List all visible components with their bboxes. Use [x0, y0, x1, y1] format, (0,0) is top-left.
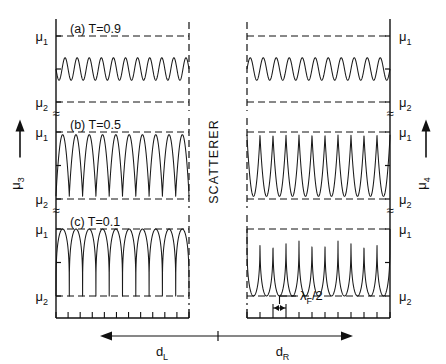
figure-root: (a) T=0.9(b) T=0.5(c) T=0.1μ1μ2μ1μ2μ1μ2μ…	[0, 0, 446, 364]
panel-b-right-curve	[247, 135, 390, 197]
panel-a-left-mu2-label: μ2	[35, 95, 48, 113]
panel-c-right-curve	[247, 229, 390, 296]
panel-b-left-mu2-label: μ2	[35, 192, 48, 210]
panel-a-right-mu1-label: μ1	[399, 29, 412, 47]
panel-c-right-mu1-label: μ1	[399, 222, 412, 240]
panel-c-right-mu2-label: μ2	[399, 289, 412, 307]
scatterer-label: SCATTERER	[207, 119, 221, 204]
axis-break-right-0: ≈	[386, 106, 393, 121]
panel-c-left-curve	[56, 229, 189, 296]
dL-label: dL	[156, 344, 168, 362]
right-axis-arrow-head	[422, 120, 431, 132]
panel-b-label: (b) T=0.5	[70, 118, 121, 132]
panel-a-right-curve	[247, 58, 390, 80]
dL-arrow-head	[100, 332, 112, 341]
left-axis-title: μ3	[8, 177, 26, 190]
lambda-arrow-left	[274, 305, 279, 311]
panel-a-left-curve	[56, 58, 189, 80]
panel-c-left-mu2-label: μ2	[35, 289, 48, 307]
panel-b-left-mu1-label: μ1	[35, 125, 48, 143]
dR-arrow-head	[341, 332, 353, 341]
panel-c-label: (c) T=0.1	[70, 215, 120, 229]
axis-break-right-1: ≈	[386, 203, 393, 218]
panel-a-right-mu2-label: μ2	[399, 95, 412, 113]
dR-label: dR	[276, 344, 290, 362]
right-axis-title: μ4	[414, 177, 432, 190]
left-axis-arrow-head	[16, 120, 25, 132]
axis-break-left-0: ≈	[52, 106, 59, 121]
lambda-arrow-right	[280, 305, 285, 311]
panel-b-right-mu2-label: μ2	[399, 192, 412, 210]
panel-a-left-mu1-label: μ1	[35, 29, 48, 47]
lambda-label: λF/2	[300, 288, 323, 306]
lambda-leader	[280, 296, 297, 304]
figure-canvas: (a) T=0.9(b) T=0.5(c) T=0.1μ1μ2μ1μ2μ1μ2μ…	[0, 0, 446, 364]
panel-b-left-curve	[56, 135, 189, 197]
panel-a-label: (a) T=0.9	[70, 22, 121, 36]
panel-c-left-mu1-label: μ1	[35, 222, 48, 240]
axis-break-left-1: ≈	[52, 203, 59, 218]
panel-b-right-mu1-label: μ1	[399, 125, 412, 143]
